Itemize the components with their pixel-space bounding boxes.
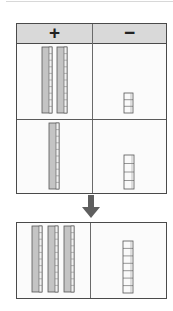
top-rule — [6, 1, 173, 2]
column-divider — [92, 24, 93, 193]
result-table — [16, 222, 167, 299]
arrow-down-icon — [82, 195, 100, 219]
addition-table: + − — [16, 23, 167, 194]
plus-column-header: + — [17, 24, 92, 43]
minus-column-header: − — [93, 24, 166, 43]
row-divider — [17, 119, 166, 120]
column-divider — [90, 223, 91, 298]
